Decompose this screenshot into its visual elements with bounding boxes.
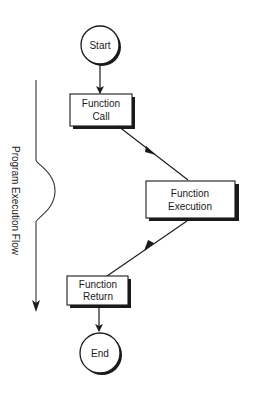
node-function-return: Function Return (67, 276, 131, 308)
flowchart-diagram: Program Execution Flow Start Function Ca… (0, 0, 259, 397)
edge-execution-to-return-arrow-icon (144, 240, 154, 251)
return-label-line2: Return (83, 291, 113, 302)
side-label: Program Execution Flow (10, 146, 21, 256)
node-start: Start (81, 26, 121, 66)
call-label-line1: Function (82, 98, 120, 109)
start-label: Start (89, 40, 110, 51)
flow-line (36, 80, 55, 305)
node-function-call: Function Call (70, 94, 135, 129)
execution-box (146, 181, 235, 218)
return-label-line1: Function (79, 279, 117, 290)
call-label-line2: Call (92, 111, 109, 122)
edge-call-to-execution-arrow-icon (145, 146, 156, 155)
execution-label-line1: Function (171, 188, 209, 199)
execution-label-line2: Execution (168, 201, 212, 212)
end-label: End (91, 348, 109, 359)
node-function-execution: Function Execution (146, 181, 239, 221)
execution-flow-indicator: Program Execution Flow (10, 80, 55, 312)
node-end: End (80, 333, 122, 375)
